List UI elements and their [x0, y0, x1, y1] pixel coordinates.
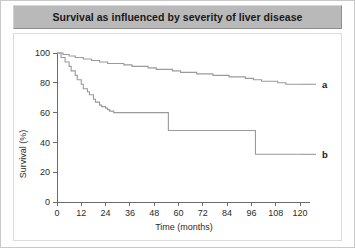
x-tick-label: 0 — [54, 208, 59, 218]
y-tick-label: 20 — [40, 167, 50, 177]
y-axis-title: Survival (%) — [18, 130, 28, 179]
survival-plot: 020406080100 01224364860728496108120 Sur… — [14, 34, 341, 240]
curve-a-label: a — [322, 79, 328, 90]
x-tick-label: 60 — [173, 208, 183, 218]
x-tick-label: 120 — [292, 208, 307, 218]
chart-title-bar: Survival as influenced by severity of li… — [13, 5, 342, 29]
x-tick-label: 84 — [222, 208, 232, 218]
x-tick-label: 12 — [76, 208, 86, 218]
x-tick-label: 72 — [198, 208, 208, 218]
curve-b-label: b — [322, 149, 328, 160]
y-tick-label: 40 — [40, 138, 50, 148]
figure-container: Survival as influenced by severity of li… — [0, 0, 355, 248]
chart-panel: 020406080100 01224364860728496108120 Sur… — [13, 33, 342, 241]
survival-curve-b — [57, 53, 300, 154]
x-tick-label: 96 — [246, 208, 256, 218]
y-tick-label: 100 — [35, 48, 50, 58]
x-axis-title: Time (months) — [155, 222, 213, 232]
y-axis-ticks: 020406080100 — [35, 48, 57, 207]
chart-title: Survival as influenced by severity of li… — [52, 11, 302, 23]
survival-curve-a — [57, 53, 300, 84]
x-tick-label: 48 — [149, 208, 159, 218]
y-tick-label: 0 — [45, 197, 50, 207]
x-tick-label: 24 — [101, 208, 111, 218]
x-axis-ticks: 01224364860728496108120 — [54, 202, 307, 218]
x-tick-label: 108 — [268, 208, 283, 218]
x-tick-label: 36 — [125, 208, 135, 218]
y-tick-label: 60 — [40, 108, 50, 118]
y-tick-label: 80 — [40, 78, 50, 88]
